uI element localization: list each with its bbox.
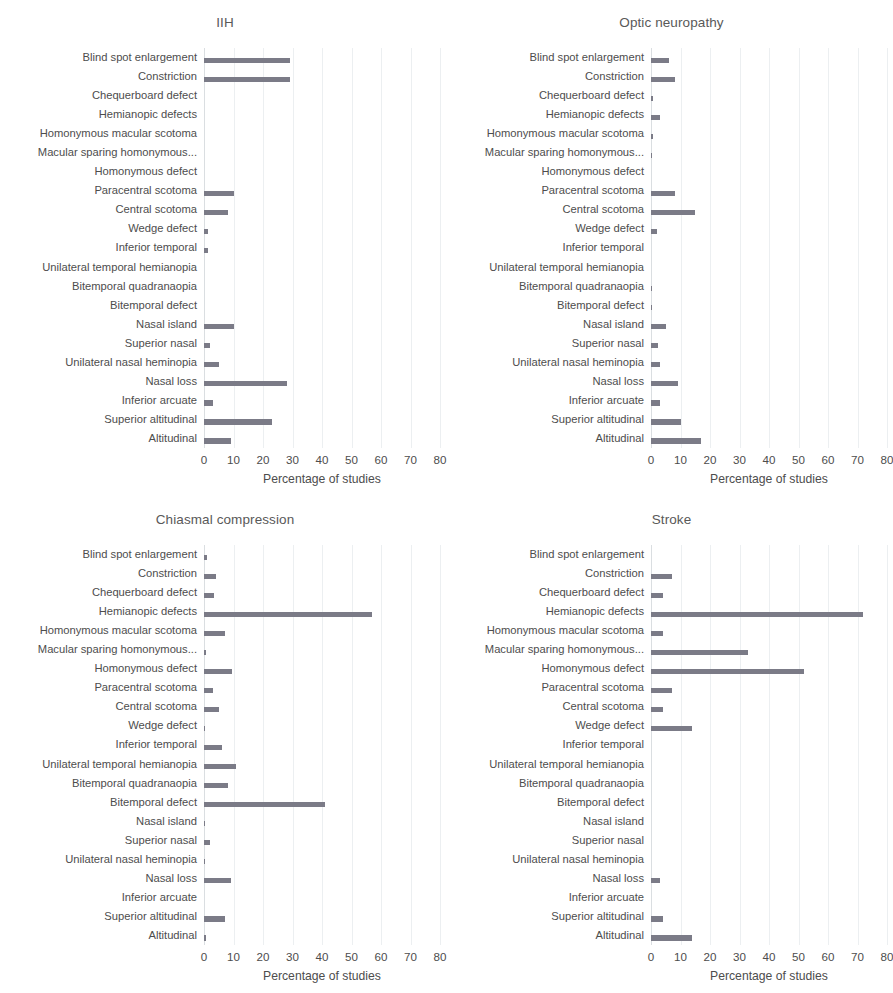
x-axis-title: Percentage of studies	[263, 969, 381, 983]
bar-row: Superior nasal	[204, 831, 440, 850]
category-label: Superior altitudinal	[104, 410, 204, 429]
bar	[204, 802, 325, 807]
bar	[204, 343, 210, 348]
bar-row: Altitudinal	[204, 926, 440, 945]
category-label: Blind spot enlargement	[530, 48, 651, 67]
bar-row: Unilateral temporal hemianopia	[651, 258, 887, 277]
category-label: Constriction	[138, 564, 204, 583]
bar-row: Unilateral nasal heminopia	[651, 353, 887, 372]
category-label: Superior nasal	[572, 334, 651, 353]
category-label: Inferior arcuate	[569, 888, 651, 907]
bar	[651, 381, 678, 386]
bar	[204, 764, 236, 769]
category-label: Constriction	[138, 67, 204, 86]
category-label: Central scotoma	[563, 200, 651, 219]
bar	[651, 58, 669, 63]
category-label: Nasal island	[136, 812, 204, 831]
bar-row: Unilateral nasal heminopia	[204, 353, 440, 372]
category-label: Altitudinal	[148, 429, 204, 448]
category-label: Hemianopic defects	[99, 602, 204, 621]
category-label: Inferior temporal	[116, 238, 204, 257]
bar	[651, 707, 663, 712]
bar-row: Unilateral temporal hemianopia	[204, 258, 440, 277]
bar	[204, 362, 219, 367]
chart-grid: IIH Blind spot enlargementConstrictionCh…	[0, 0, 893, 993]
category-label: Nasal loss	[592, 869, 651, 888]
category-label: Macular sparing homonymous...	[485, 640, 651, 659]
category-label: Homonymous macular scotoma	[40, 621, 204, 640]
x-axis-tick: 0	[201, 450, 207, 470]
bar	[204, 400, 213, 405]
bar-row: Altitudinal	[651, 429, 887, 448]
bar	[204, 210, 228, 215]
bar-row: Superior altitudinal	[204, 907, 440, 926]
bar	[204, 840, 210, 845]
category-label: Superior nasal	[125, 334, 204, 353]
bar-row: Blind spot enlargement	[651, 48, 887, 67]
x-axis-tick: 70	[851, 947, 864, 967]
x-axis: 01020304050607080	[204, 947, 440, 967]
bar-row: Bitemporal quadranaopia	[651, 277, 887, 296]
bar	[651, 438, 701, 443]
gridline	[887, 48, 888, 448]
bar-row: Nasal loss	[651, 372, 887, 391]
category-label: Homonymous defect	[94, 162, 204, 181]
bar-row: Nasal island	[204, 812, 440, 831]
category-label: Paracentral scotoma	[541, 678, 651, 697]
bar	[651, 96, 653, 101]
category-label: Wedge defect	[575, 716, 651, 735]
bar-row: Paracentral scotoma	[651, 181, 887, 200]
bar-row: Blind spot enlargement	[204, 545, 440, 564]
x-axis-tick: 70	[851, 450, 864, 470]
bar-row: Blind spot enlargement	[651, 545, 887, 564]
category-label: Central scotoma	[116, 697, 204, 716]
bar-row: Homonymous macular scotoma	[651, 124, 887, 143]
bar-row: Wedge defect	[204, 219, 440, 238]
category-label: Paracentral scotoma	[541, 181, 651, 200]
bar-row: Inferior arcuate	[651, 391, 887, 410]
x-axis-tick: 30	[733, 450, 746, 470]
bar-row: Hemianopic defects	[204, 602, 440, 621]
x-axis-tick: 10	[227, 450, 240, 470]
plot-area: Blind spot enlargementConstrictionCheque…	[204, 545, 440, 945]
category-label: Constriction	[585, 564, 651, 583]
bar	[204, 419, 272, 424]
bar-row: Paracentral scotoma	[204, 678, 440, 697]
category-label: Central scotoma	[563, 697, 651, 716]
category-label: Blind spot enlargement	[83, 48, 204, 67]
bar	[651, 77, 675, 82]
bar	[204, 438, 231, 443]
x-axis-tick: 50	[345, 450, 358, 470]
bar	[204, 688, 213, 693]
category-label: Homonymous defect	[94, 659, 204, 678]
bar-row: Homonymous defect	[204, 162, 440, 181]
x-axis-tick: 0	[648, 947, 654, 967]
bar	[651, 726, 692, 731]
bar-row: Homonymous macular scotoma	[204, 621, 440, 640]
category-label: Homonymous macular scotoma	[40, 124, 204, 143]
bar-row: Central scotoma	[204, 200, 440, 219]
bar-row: Hemianopic defects	[204, 105, 440, 124]
bar	[204, 650, 206, 655]
bar-row: Inferior arcuate	[204, 391, 440, 410]
bar	[651, 229, 657, 234]
bar-row: Nasal loss	[204, 372, 440, 391]
category-label: Bitemporal defect	[557, 793, 651, 812]
bar-row: Macular sparing homonymous...	[651, 640, 887, 659]
bar	[204, 916, 225, 921]
bar-row: Constriction	[204, 67, 440, 86]
panel-iih: IIH Blind spot enlargementConstrictionCh…	[0, 0, 450, 497]
bar-row: Altitudinal	[651, 926, 887, 945]
x-axis-tick: 40	[763, 450, 776, 470]
bar	[651, 650, 748, 655]
bar	[204, 191, 234, 196]
bar	[651, 419, 681, 424]
category-label: Inferior temporal	[563, 238, 651, 257]
bar-row: Hemianopic defects	[651, 105, 887, 124]
bar	[204, 669, 232, 674]
panel-title: Stroke	[450, 497, 893, 531]
bar-row: Nasal island	[651, 812, 887, 831]
bar	[204, 248, 208, 253]
category-label: Altitudinal	[148, 926, 204, 945]
x-axis-tick: 40	[763, 947, 776, 967]
